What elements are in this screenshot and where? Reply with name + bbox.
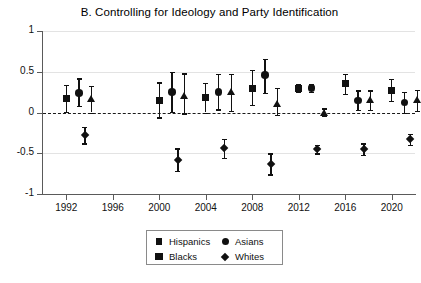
x-tick-label: 2008: [227, 202, 277, 213]
x-tick-mark: [159, 195, 160, 200]
legend-label: Whites: [235, 251, 264, 262]
y-tick-mark: [37, 153, 42, 154]
data-point-whites[interactable]: [406, 135, 415, 144]
data-point-asians[interactable]: [215, 88, 223, 96]
error-bar-cap: [203, 113, 208, 114]
data-point-whites[interactable]: [266, 159, 275, 168]
data-point-asians[interactable]: [354, 97, 362, 105]
x-tick-mark: [252, 195, 253, 200]
error-bar-cap: [77, 78, 82, 79]
x-tick-label: 2016: [320, 202, 370, 213]
data-point-blacks[interactable]: [320, 109, 328, 116]
error-bar-cap: [322, 116, 327, 117]
error-bar-cap: [250, 70, 255, 71]
data-point-asians[interactable]: [261, 71, 269, 79]
error-bar-cap: [64, 112, 69, 113]
x-tick-mark: [345, 195, 346, 200]
data-point-hispanics[interactable]: [202, 94, 209, 101]
data-points-layer: [43, 31, 415, 194]
data-point-hispanics[interactable]: [342, 80, 349, 87]
x-axis-line: [42, 194, 416, 195]
x-tick-label: 1992: [41, 202, 91, 213]
y-tick-mark: [37, 194, 42, 195]
data-point-asians[interactable]: [168, 88, 176, 96]
x-tick-mark: [299, 195, 300, 200]
x-tick-label: 1996: [88, 202, 138, 213]
data-point-whites[interactable]: [220, 144, 229, 153]
square-marker-icon: [153, 236, 165, 248]
data-point-whites[interactable]: [173, 155, 182, 164]
error-bar-cap: [275, 88, 280, 89]
legend-label: Asians: [235, 236, 264, 247]
chart-title: B. Controlling for Ideology and Party Id…: [0, 6, 419, 18]
error-bar-cap: [77, 106, 82, 107]
data-point-whites[interactable]: [359, 145, 368, 154]
x-tick-mark: [113, 195, 114, 200]
y-tick-label: 1: [0, 25, 34, 35]
x-tick-label: 2012: [274, 202, 324, 213]
y-tick-label: 0: [0, 107, 34, 117]
data-point-hispanics[interactable]: [63, 95, 70, 102]
error-bar-cap: [157, 82, 162, 83]
y-tick-label: -1: [0, 188, 34, 198]
error-bar-cap: [203, 83, 208, 84]
error-bar-cap: [415, 111, 420, 112]
error-bar-cap: [170, 112, 175, 113]
legend-item-blacks[interactable]: Blacks: [153, 249, 197, 264]
error-bar-cap: [89, 113, 94, 114]
data-point-blacks[interactable]: [87, 95, 95, 102]
error-bar-cap: [275, 115, 280, 116]
y-tick-label: 0.5: [0, 66, 34, 76]
x-tick-label: 2004: [181, 202, 231, 213]
error-bar-cap: [170, 72, 175, 73]
error-bar-cap: [263, 93, 268, 94]
error-bar-cap: [263, 59, 268, 60]
legend-label: Hispanics: [169, 236, 210, 247]
data-point-blacks[interactable]: [227, 88, 235, 95]
data-point-blacks[interactable]: [413, 96, 421, 103]
error-bar-cap: [402, 92, 407, 93]
data-point-whites[interactable]: [313, 145, 322, 154]
data-point-hispanics[interactable]: [156, 97, 163, 104]
y-tick-mark: [37, 72, 42, 73]
legend-label: Blacks: [169, 251, 197, 262]
error-bar-cap: [402, 113, 407, 114]
legend-item-whites[interactable]: Whites: [219, 249, 264, 264]
error-bar-cap: [182, 113, 187, 114]
chart-legend: HispanicsAsiansBlacksWhites: [146, 230, 283, 265]
data-point-asians[interactable]: [308, 84, 316, 92]
error-bar-cap: [356, 90, 361, 91]
data-point-hispanics[interactable]: [295, 85, 302, 92]
error-bar-cap: [408, 145, 413, 146]
error-bar-cap: [268, 153, 273, 154]
error-bar-cap: [250, 105, 255, 106]
legend-item-asians[interactable]: Asians: [219, 234, 264, 249]
error-bar-cap: [356, 110, 361, 111]
data-point-blacks[interactable]: [180, 92, 188, 99]
data-point-asians[interactable]: [75, 89, 83, 97]
error-bar-cap: [389, 101, 394, 102]
error-bar-cap: [296, 92, 301, 93]
data-point-hispanics[interactable]: [249, 85, 256, 92]
x-tick-mark: [392, 195, 393, 200]
error-bar-cap: [222, 158, 227, 159]
data-point-hispanics[interactable]: [388, 87, 395, 94]
y-tick-label: -0.5: [0, 147, 34, 157]
x-tick-mark: [206, 195, 207, 200]
error-bar-cap: [175, 148, 180, 149]
legend-item-hispanics[interactable]: Hispanics: [153, 234, 210, 249]
data-point-whites[interactable]: [80, 131, 89, 140]
error-bar-cap: [175, 171, 180, 172]
error-bar-cap: [309, 92, 314, 93]
error-bar-cap: [343, 74, 348, 75]
data-point-asians[interactable]: [401, 99, 409, 107]
x-tick-mark: [66, 195, 67, 200]
y-tick-mark: [37, 113, 42, 114]
error-bar-cap: [82, 127, 87, 128]
data-point-blacks[interactable]: [273, 100, 281, 107]
error-bar-cap: [343, 94, 348, 95]
data-point-blacks[interactable]: [366, 96, 374, 103]
error-bar-cap: [368, 110, 373, 111]
circle-marker-icon: [219, 236, 231, 248]
error-bar-cap: [229, 111, 234, 112]
